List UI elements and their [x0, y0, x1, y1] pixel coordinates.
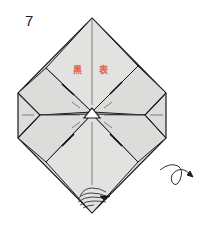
origami-diagram — [0, 0, 205, 229]
label-front: 表 — [99, 63, 108, 76]
turn-over-arrow-icon — [160, 165, 193, 185]
label-black: 黒 — [73, 63, 82, 76]
